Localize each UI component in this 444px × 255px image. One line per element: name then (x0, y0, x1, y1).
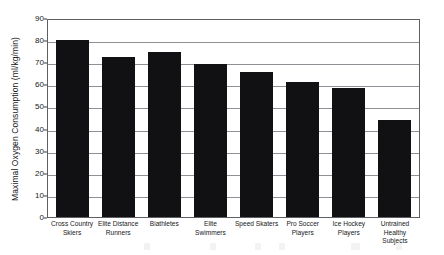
bar-series (48, 20, 419, 217)
y-axis-tick-90: 90 (22, 15, 44, 23)
bar-3 (194, 64, 227, 217)
plot-area (47, 19, 420, 218)
y-axis-tick-10: 10 (22, 192, 44, 200)
y-axis-tick-60: 60 (22, 81, 44, 89)
y-axis-tickmark-70 (44, 63, 47, 64)
scan-artifact (132, 243, 432, 250)
y-axis-tickmark-90 (44, 19, 47, 20)
y-axis-tickmark-40 (44, 129, 47, 130)
y-axis-tick-70: 70 (22, 59, 44, 67)
y-axis-tick-40: 40 (22, 126, 44, 134)
y-axis-tickmark-50 (44, 107, 47, 108)
y-axis-tick-0: 0 (22, 214, 44, 222)
bar-0 (56, 40, 89, 217)
y-axis-tick-80: 80 (22, 37, 44, 45)
bar-slot (50, 20, 96, 217)
y-axis-tickmark-80 (44, 41, 47, 42)
y-axis-tick-20: 20 (22, 170, 44, 178)
bar-slot (234, 20, 280, 217)
y-axis-tick-labels: 9080706050403020100 (22, 0, 44, 255)
y-axis-tickmark-60 (44, 85, 47, 86)
bar-slot (279, 20, 325, 217)
bar-slot (142, 20, 188, 217)
bar-slot (371, 20, 417, 217)
bar-5 (286, 82, 319, 217)
y-axis-tickmark-10 (44, 195, 47, 196)
bar-6 (332, 88, 365, 217)
bar-2 (148, 52, 181, 217)
y-axis-tickmark-0 (44, 218, 47, 219)
bar-slot (96, 20, 142, 217)
bar-chart: Maximal Oxygen Consumption (ml/kg/min) 9… (0, 0, 444, 255)
y-axis-tick-30: 30 (22, 148, 44, 156)
bar-slot (188, 20, 234, 217)
y-axis-tickmark-20 (44, 173, 47, 174)
y-axis-tick-50: 50 (22, 103, 44, 111)
bar-slot (325, 20, 371, 217)
bar-4 (240, 72, 273, 217)
y-axis-tickmark-30 (44, 151, 47, 152)
category-label-0: Cross Country Skiers (49, 220, 95, 246)
bar-1 (102, 57, 135, 217)
bar-7 (378, 120, 411, 217)
y-axis-title: Maximal Oxygen Consumption (ml/kg/min) (10, 12, 20, 226)
